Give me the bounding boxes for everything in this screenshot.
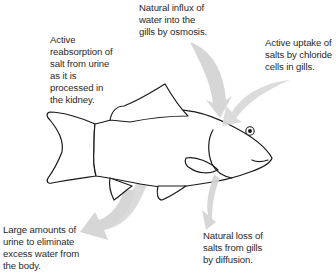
label-urine-output: Large amounts of urine to eliminate exce…	[3, 224, 79, 272]
label-salt-loss: Natural loss of salts from gills by diff…	[203, 230, 263, 266]
salt-uptake-arrow	[222, 80, 290, 126]
water-influx-arrow	[190, 42, 232, 118]
label-salt-uptake: Active uptake of salts by chloride cells…	[265, 37, 332, 73]
fish-pupil	[248, 129, 252, 133]
label-salt-reabsorption: Active reabsorption of salt from urine a…	[50, 34, 113, 106]
label-water-influx: Natural influx of water into the gills b…	[139, 2, 207, 38]
